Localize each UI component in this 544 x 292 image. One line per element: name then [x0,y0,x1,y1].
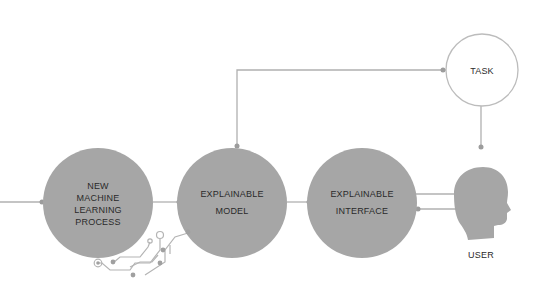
label-task: TASK [470,65,494,77]
dot-icon [441,68,446,73]
user-head-icon [454,167,511,240]
label-new-ml-process: NEW MACHINE LEARNING PROCESS [74,180,122,228]
edge-task-to-model [237,70,446,148]
label-explainable-interface: EXPLAINABLE INTERFACE [330,186,393,220]
dot-icon [235,144,240,149]
label-explainable-model: EXPLAINABLE MODEL [200,186,263,220]
dot-icon [479,145,484,150]
label-user: USER [468,249,494,261]
xai-diagram [0,0,544,292]
